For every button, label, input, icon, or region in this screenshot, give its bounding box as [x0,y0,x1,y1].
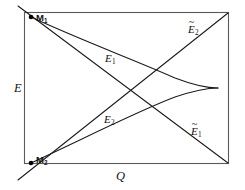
node-label-m1-base: M [36,12,44,23]
node-label-m2-sub: 2 [44,159,48,166]
figure-root: E Q M1 M2 E1 E2 ~E2 ~E1 [0,0,245,190]
node-dot-m2 [29,161,34,166]
curve-label-e2-base: E [104,113,111,125]
curve-e2 [31,88,218,163]
axis-label-e: E [14,82,22,95]
curve-label-e2: E2 [104,114,114,125]
tilde-accent-icon-e1: ~ [191,119,198,129]
tilde-accent-icon-e2: ~ [188,17,195,27]
node-label-m2: M2 [36,155,47,165]
line-label-e2-tilde: ~E2 [188,24,198,35]
line-e2-tilde [18,13,228,180]
line-label-e1-tilde: ~E1 [191,126,201,137]
node-label-m1-sub: 1 [44,17,48,24]
curve-label-e2-sub: 2 [111,119,115,127]
axis-label-q: Q [116,170,125,183]
line-label-e2-tilde-wrap: ~E [188,24,195,35]
curve-label-e1: E1 [105,53,115,64]
line-label-e1-sub: 1 [198,131,202,139]
node-label-m1: M1 [36,13,47,23]
curve-label-e1-base: E [105,52,112,64]
node-dot-m1 [29,15,34,20]
line-label-e1-tilde-wrap: ~E [191,126,198,137]
curve-label-e1-sub: 1 [112,58,116,66]
node-label-m2-base: M [36,154,44,165]
line-label-e2-sub: 2 [195,29,199,37]
